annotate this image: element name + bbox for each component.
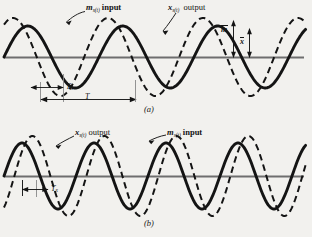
panel-a-t-label: T [85, 93, 89, 101]
panel-a-mbar-arrowhead-top [231, 20, 236, 26]
panel-b-input-subscript: s(t) [174, 132, 181, 138]
panel-a-input-word: input [102, 2, 121, 12]
panel-b-output-leader-line [56, 136, 74, 146]
panel-a-mbar-symbol: m [221, 26, 227, 34]
panel-b-input-word: input [183, 127, 202, 137]
panel-a-t-symbol: T [85, 92, 89, 101]
panel-a-input-symbol: m [86, 2, 93, 12]
panel-a-mbar-label: m [221, 26, 227, 34]
panel-a-caption: (a) [144, 105, 154, 114]
panel-b [4, 135, 306, 216]
panel-a-tx-arrowhead-left [31, 85, 37, 90]
panel-b-output-word: output [88, 127, 110, 137]
panel-b-caption: (b) [144, 219, 154, 228]
panel-b-tx-label: Tx [51, 185, 58, 193]
panel-b-input-leader-line [149, 135, 166, 141]
panel-a-tx-label: Tx [66, 83, 73, 91]
panel-b-output-label: xs(t) output [75, 128, 110, 138]
panel-a-output-leader-arrow [163, 31, 169, 35]
panel-a-xbar-symbol: x [240, 38, 244, 46]
panel-a-output-leader-line [163, 13, 176, 31]
panel-a-output-word: output [184, 2, 206, 12]
panel-b-input-symbol: m [167, 127, 174, 137]
panel-a-output-label: xs(t) output [168, 3, 205, 13]
panel-a [4, 12, 306, 103]
panel-a-xbar-arrowhead-top [247, 28, 252, 34]
panel-a-tx-arrowhead-right [58, 85, 64, 90]
panel-a-tx-subscript: x [70, 85, 72, 91]
panel-a-input-label: ms(t) input [86, 3, 121, 13]
panel-b-input-label: ms(t) input [167, 128, 202, 138]
panel-a-input-subscript: s(t) [93, 7, 100, 13]
panel-b-tx-subscript: x [55, 187, 57, 193]
panel-a-xbar-label: x [240, 38, 244, 46]
waveform-figure [0, 0, 312, 237]
panel-a-input-leader-line [66, 12, 85, 23]
panel-a-t-arrowhead-left [40, 97, 47, 102]
